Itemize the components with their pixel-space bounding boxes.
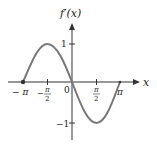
x-tick-label-neg-half-pi-num: π (44, 86, 50, 94)
x-tick-label-neg-half-pi-den: 2 (45, 95, 49, 103)
y-axis-arrow-icon (69, 23, 75, 30)
x-tick-label-half-pi-den: 2 (94, 95, 98, 103)
endpoint-dot (21, 80, 25, 84)
origin-label: 0 (64, 85, 70, 95)
y-tick-label-one: 1 (61, 39, 67, 49)
x-tick-label-half-pi-num: π (93, 86, 99, 94)
x-tick-label-neg-pi: − π (12, 87, 29, 97)
y-tick-label-minus-one: −1 (56, 119, 69, 129)
x-tick-label-neg-half-pi-sign: − (37, 89, 44, 98)
x-axis-arrow-icon (133, 79, 140, 85)
endpoint-pi-marker (119, 81, 121, 83)
x-tick-label-pi: π (116, 87, 124, 97)
chart-canvas: f′(x) x 0 1 −1 − π π − π 2 π 2 (0, 0, 157, 149)
x-axis-label: x (143, 76, 150, 89)
y-axis-label: f′(x) (59, 7, 81, 20)
